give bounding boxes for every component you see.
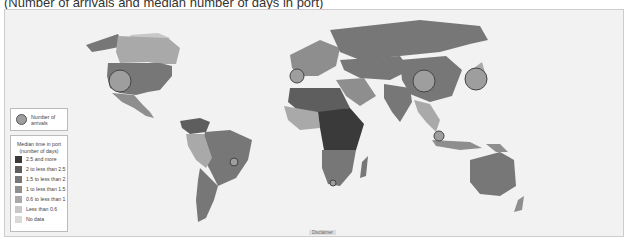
- legend-item: 2.5 and more: [11, 154, 67, 164]
- legend-swatch: [15, 206, 22, 213]
- region-australia: [470, 152, 516, 196]
- legend-item: Less than 0.6: [11, 204, 67, 214]
- legend-swatch: [15, 186, 22, 193]
- legend-header: Median time in port (number of days): [11, 141, 67, 154]
- bubble-japan: [465, 68, 487, 90]
- bubble-singapore: [434, 131, 444, 141]
- region-se-asia: [414, 100, 440, 132]
- region-central-asia: [340, 56, 410, 80]
- region-canada: [116, 36, 180, 64]
- legend-item: No data: [11, 214, 67, 224]
- legend-swatch: [15, 166, 22, 173]
- median-time-legend: Median time in port (number of days) 2.5…: [10, 135, 68, 232]
- region-india: [384, 84, 412, 122]
- region-new-zealand: [514, 196, 524, 212]
- legend-item: 1.5 to less than 2: [11, 174, 67, 184]
- legend-item: 1 to less than 1.5: [11, 184, 67, 194]
- world-map[interactable]: [0, 0, 629, 239]
- bubble-brazil: [230, 158, 238, 166]
- legend-swatch: [15, 216, 22, 223]
- legend-item: 0.6 to less than 1: [11, 194, 67, 204]
- region-mexico: [112, 93, 154, 118]
- region-russia: [330, 20, 488, 60]
- arrivals-bubble-icon: [16, 114, 27, 125]
- bubble-china: [413, 70, 435, 92]
- bubble-south-africa: [330, 180, 336, 186]
- region-madagascar: [360, 156, 368, 178]
- region-southern-africa: [322, 150, 356, 186]
- arrivals-label: Number of arrivals: [31, 114, 67, 126]
- legend-swatch: [15, 196, 22, 203]
- legend-swatch: [15, 156, 22, 163]
- legend-item: 2 to less than 2.5: [11, 164, 67, 174]
- bubble-spain: [290, 69, 304, 83]
- disclaimer-link[interactable]: Disclaimer: [309, 230, 336, 235]
- arrivals-legend: Number of arrivals: [10, 108, 68, 131]
- region-venezuela-colombia: [180, 118, 210, 134]
- legend-swatch: [15, 176, 22, 183]
- bubble-usa: [109, 70, 131, 92]
- region-png: [486, 144, 508, 152]
- region-indonesia: [432, 140, 482, 150]
